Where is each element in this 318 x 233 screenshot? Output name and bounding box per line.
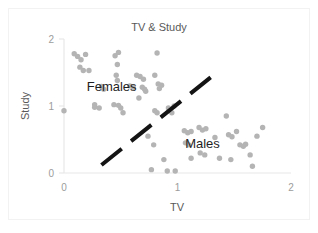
data-point <box>188 156 193 161</box>
data-point <box>260 125 265 130</box>
x-axis-ticks: 012 <box>61 182 294 193</box>
data-point <box>247 152 252 157</box>
data-point <box>115 62 120 67</box>
data-point <box>96 105 101 110</box>
data-point <box>136 95 141 100</box>
data-point <box>141 77 146 82</box>
data-point <box>217 156 222 161</box>
data-point <box>120 110 125 115</box>
x-axis-label: TV <box>170 201 185 213</box>
data-point <box>78 57 83 62</box>
data-point <box>188 129 193 134</box>
data-point <box>250 164 255 169</box>
data-point <box>228 157 233 162</box>
y-axis-ticks: 012 <box>48 34 64 179</box>
data-point <box>202 152 207 157</box>
data-point <box>154 50 159 55</box>
chart-title: TV & Study <box>131 21 187 33</box>
data-point <box>145 133 150 138</box>
cluster-annotations: FemalesMales <box>87 79 221 150</box>
data-point <box>243 141 248 146</box>
data-point <box>92 105 97 110</box>
data-point <box>234 129 239 134</box>
data-point <box>143 89 148 94</box>
data-point <box>203 126 208 131</box>
x-tick-label: 1 <box>175 182 181 193</box>
data-point <box>86 68 91 73</box>
y-tick-label: 2 <box>48 34 54 45</box>
x-tick-label: 0 <box>61 182 67 193</box>
data-point <box>83 52 88 57</box>
x-tick-label: 2 <box>288 182 294 193</box>
chart-frame: TV & Study 012 012 Study TV FemalesMales <box>8 8 310 220</box>
data-point <box>173 168 178 173</box>
chart-canvas: TV & Study 012 012 Study TV FemalesMales <box>9 9 309 219</box>
data-point <box>165 168 170 173</box>
data-point <box>157 86 162 91</box>
scatter-points <box>61 50 265 174</box>
data-point <box>114 72 119 77</box>
y-tick-label: 0 <box>48 168 54 179</box>
data-point <box>151 142 156 147</box>
data-point <box>154 110 159 115</box>
data-point <box>161 157 166 162</box>
cluster-label-males: Males <box>185 136 220 151</box>
scatter-chart-image: TV & Study 012 012 Study TV FemalesMales <box>0 0 318 233</box>
data-point <box>61 108 66 113</box>
data-point <box>149 167 154 172</box>
data-point <box>111 102 116 107</box>
data-point <box>224 113 229 118</box>
data-point <box>229 134 234 139</box>
cluster-label-females: Females <box>87 79 137 94</box>
y-tick-label: 1 <box>48 101 54 112</box>
data-point <box>116 50 121 55</box>
data-point <box>152 72 157 77</box>
data-point <box>81 68 86 73</box>
data-point <box>118 105 123 110</box>
y-axis-label: Study <box>19 91 31 120</box>
data-point <box>254 133 259 138</box>
